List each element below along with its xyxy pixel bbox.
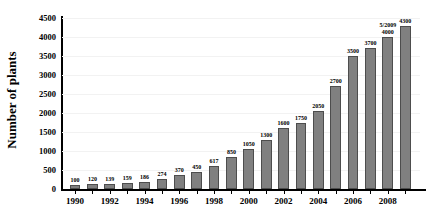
bar <box>174 175 185 189</box>
x-tick-label: 1990 <box>66 196 84 206</box>
plot-area: 1001201391591862743704506178501050130016… <box>62 18 420 189</box>
bar <box>330 86 341 189</box>
x-tick-label: 1998 <box>205 196 223 206</box>
x-tick-mark <box>75 190 76 194</box>
bar-value-label: 1050 <box>243 141 255 147</box>
x-tick-mark <box>249 190 250 194</box>
bar-value-label: 3500 <box>347 48 359 54</box>
bar <box>348 56 359 189</box>
bar-value-label: 1750 <box>295 115 307 121</box>
y-tick-label: 1500 <box>0 127 56 137</box>
bar <box>261 140 272 189</box>
y-tick-label: 500 <box>0 165 56 175</box>
bar <box>400 26 411 189</box>
bar-value-label: 3700 <box>364 40 376 46</box>
bar <box>365 48 376 189</box>
bar <box>382 37 393 189</box>
x-tick-mark <box>127 190 128 194</box>
x-tick-mark <box>353 190 354 194</box>
bar-value-label: 274 <box>157 171 166 177</box>
x-tick-mark <box>370 190 371 194</box>
x-tick-label: 2008 <box>379 196 397 206</box>
x-tick-mark <box>388 190 389 194</box>
bar <box>122 183 133 189</box>
bar <box>313 111 324 189</box>
bar <box>191 172 202 189</box>
y-tick-label: 0 <box>0 184 56 194</box>
x-tick-mark <box>162 190 163 194</box>
bar <box>243 149 254 189</box>
bar <box>296 123 307 190</box>
bar-value-label: 100 <box>71 177 80 183</box>
bar-value-label: 139 <box>105 176 114 182</box>
x-tick-label: 2002 <box>275 196 293 206</box>
bar-value-label: 850 <box>227 149 236 155</box>
bar <box>70 185 81 189</box>
bar-value-label: 370 <box>175 167 184 173</box>
bar-value-label: 4000 <box>382 29 394 35</box>
x-tick-mark <box>301 190 302 194</box>
y-axis-tick-labels: 050010001500200025003000350040004500 <box>0 0 58 223</box>
x-tick-mark <box>318 190 319 194</box>
bar-value-label: 450 <box>192 164 201 170</box>
y-tick-label: 2000 <box>0 108 56 118</box>
bar <box>209 166 220 189</box>
y-tick-label: 3500 <box>0 51 56 61</box>
chart-annotation: 5/2009 <box>380 22 397 28</box>
x-tick-mark <box>405 190 406 194</box>
x-tick-label: 1992 <box>101 196 119 206</box>
x-tick-label: 2000 <box>240 196 258 206</box>
bar-value-label: 2050 <box>312 103 324 109</box>
x-tick-mark <box>145 190 146 194</box>
bar-value-label: 1600 <box>278 120 290 126</box>
bar-chart: Number of plants 05001000150020002500300… <box>0 0 447 223</box>
x-tick-mark <box>214 190 215 194</box>
x-tick-mark <box>197 190 198 194</box>
x-tick-label: 2006 <box>344 196 362 206</box>
bar-value-label: 2700 <box>330 78 342 84</box>
bar-value-label: 4300 <box>399 18 411 24</box>
y-tick-label: 2500 <box>0 89 56 99</box>
bar-value-label: 120 <box>88 176 97 182</box>
bar <box>104 184 115 189</box>
x-tick-label: 2004 <box>309 196 327 206</box>
x-tick-mark <box>284 190 285 194</box>
x-tick-mark <box>336 190 337 194</box>
bar <box>278 128 289 189</box>
y-tick-label: 4000 <box>0 32 56 42</box>
y-tick-label: 4500 <box>0 13 56 23</box>
x-tick-label: 1996 <box>170 196 188 206</box>
bar <box>139 182 150 189</box>
x-tick-mark <box>110 190 111 194</box>
bar-value-label: 617 <box>210 158 219 164</box>
bar <box>226 157 237 189</box>
bar-value-label: 186 <box>140 174 149 180</box>
y-tick-label: 3000 <box>0 70 56 80</box>
x-tick-mark <box>92 190 93 194</box>
x-tick-mark <box>179 190 180 194</box>
bar-value-label: 1300 <box>260 132 272 138</box>
bar <box>87 184 98 189</box>
y-tick-label: 1000 <box>0 146 56 156</box>
x-tick-mark <box>231 190 232 194</box>
gridline <box>62 37 420 38</box>
x-tick-mark <box>266 190 267 194</box>
gridline <box>62 18 420 19</box>
x-tick-label: 1994 <box>136 196 154 206</box>
bar-value-label: 159 <box>123 175 132 181</box>
bar <box>157 179 168 189</box>
